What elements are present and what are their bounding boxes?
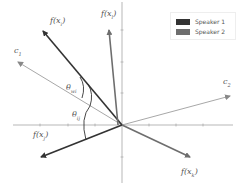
label-f-xi: f(xi) [50, 17, 65, 27]
legend-label-speaker-2: Speaker 2 [195, 28, 225, 35]
legend-item-speaker-1: Speaker 1 [176, 18, 225, 25]
legend: Speaker 1 Speaker 2 [170, 12, 236, 40]
label-f-xi-base: f(x [50, 16, 61, 25]
legend-swatch-speaker-1 [176, 19, 190, 25]
label-f-xj-end: ) [45, 130, 48, 139]
label-c2-sub: 2 [227, 82, 230, 88]
label-f-xk-base: f(x [181, 167, 192, 176]
label-c1-sub: 1 [18, 51, 21, 57]
c2-vector [122, 96, 230, 125]
label-c1: c1 [14, 47, 22, 57]
legend-item-speaker-2: Speaker 2 [176, 28, 225, 35]
label-f-xj-base: f(x [33, 130, 44, 139]
label-c2: c2 [223, 78, 231, 88]
label-theta-ij-sub: ij [77, 115, 80, 121]
label-f-xk: f(xk) [181, 168, 198, 178]
label-f-xk-end: ) [195, 167, 198, 176]
legend-label-speaker-1: Speaker 1 [195, 18, 225, 25]
label-theta-wi-sub: wi [71, 88, 77, 94]
label-theta-wi: θwi [66, 84, 77, 94]
legend-swatch-speaker-2 [176, 29, 190, 35]
label-f-xl-end: ) [113, 9, 116, 18]
label-f-xj: f(xj) [33, 131, 48, 141]
f-xj-vector [41, 125, 122, 157]
label-f-xl-base: f(x [101, 9, 112, 18]
label-f-xi-end: ) [62, 16, 65, 25]
label-f-xl: f(xl) [101, 10, 116, 20]
theta-ij-arc [84, 106, 90, 140]
label-theta-ij: θij [72, 111, 80, 121]
f-xk-vector [122, 125, 190, 157]
theta-wi-arc-inner [80, 77, 84, 98]
